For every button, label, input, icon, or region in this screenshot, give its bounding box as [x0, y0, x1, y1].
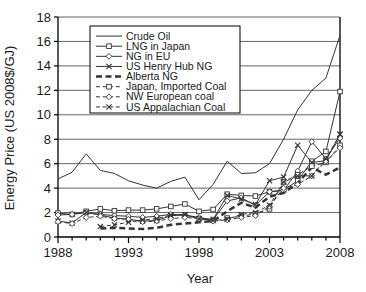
data-point-square	[197, 209, 202, 214]
data-point-square	[338, 89, 343, 94]
data-point-square	[140, 208, 145, 213]
data-point-square	[310, 164, 315, 169]
y-axis-title: Energy Price (US 2008$/GJ)	[2, 46, 17, 211]
energy-price-line-chart: 024681012141618 19881993199820032008 Ene…	[0, 0, 366, 292]
chart-legend: Crude OilLNG in JapanNG in EUUS Henry Hu…	[90, 26, 240, 113]
x-tick-label: 2008	[326, 245, 355, 260]
y-tick-label: 0	[44, 230, 51, 245]
y-tick-label: 14	[37, 58, 51, 73]
x-tick-label: 1998	[185, 245, 214, 260]
x-tick-label: 1988	[44, 245, 73, 260]
y-tick-label: 6	[44, 156, 51, 171]
data-point-square	[324, 149, 329, 154]
y-tick-label: 16	[37, 34, 51, 49]
y-tick-label: 18	[37, 10, 51, 25]
data-point-square	[183, 202, 188, 207]
data-point-square	[169, 204, 174, 209]
x-tick-label: 1993	[114, 245, 143, 260]
data-point-square	[154, 207, 159, 212]
y-tick-label: 2	[44, 205, 51, 220]
data-point-square	[126, 208, 131, 213]
y-tick-label: 4	[44, 181, 51, 196]
chart-root: 024681012141618 19881993199820032008 Ene…	[0, 0, 366, 292]
data-point-square	[107, 44, 112, 49]
x-axis-title: Year	[187, 271, 214, 286]
y-tick-label: 8	[44, 132, 51, 147]
x-tick-label: 2003	[255, 245, 284, 260]
data-point-square	[253, 194, 258, 199]
legend-label: US Appalachian Coal	[126, 101, 225, 113]
y-tick-label: 12	[37, 83, 51, 98]
data-point-square	[98, 207, 103, 212]
data-point-square	[107, 84, 112, 89]
data-point-square	[211, 207, 216, 212]
y-tick-label: 10	[37, 107, 51, 122]
